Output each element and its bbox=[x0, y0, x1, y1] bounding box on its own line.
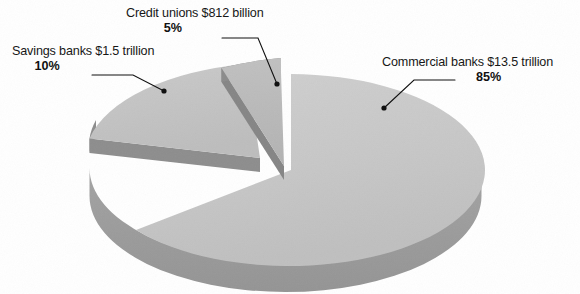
leader-dot-savings-banks bbox=[161, 88, 166, 93]
callout-credit-unions: Credit unions $812 billion 5% bbox=[126, 6, 264, 35]
callout-savings-banks: Savings banks $1.5 trillion 10% bbox=[12, 44, 154, 73]
callout-percent-credit-unions: 5% bbox=[126, 21, 220, 35]
callout-label-credit-unions: Credit unions $812 billion bbox=[126, 6, 264, 20]
callout-percent-savings-banks: 10% bbox=[12, 59, 82, 73]
callout-commercial-banks: Commercial banks $13.5 trillion 85% bbox=[382, 55, 553, 84]
callout-label-commercial-banks: Commercial banks $13.5 trillion bbox=[382, 55, 553, 69]
leader-dot-credit-unions bbox=[274, 81, 279, 86]
leader-dot-commercial-banks bbox=[381, 105, 386, 110]
callout-percent-commercial-banks: 85% bbox=[424, 70, 553, 84]
callout-label-savings-banks: Savings banks $1.5 trillion bbox=[12, 44, 154, 58]
pie-chart: Credit unions $812 billion 5% Savings ba… bbox=[0, 0, 580, 294]
